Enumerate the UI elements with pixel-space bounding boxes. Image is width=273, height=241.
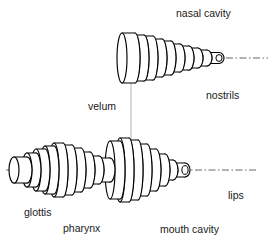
label-mouth-cavity: mouth cavity xyxy=(160,223,220,235)
oral-tract-opening xyxy=(182,166,188,175)
label-lips: lips xyxy=(228,189,244,201)
label-pharynx: pharynx xyxy=(63,222,101,234)
vocal-tract-svg: nasal cavitynostrilsvelumglottispharynxm… xyxy=(0,0,273,241)
glottis-seg-1 xyxy=(9,157,32,183)
vocal-tract-diagram: nasal cavitynostrilsvelumglottispharynxm… xyxy=(0,0,273,241)
nasal-seg-1-near-face xyxy=(117,33,127,83)
nasal-tract-opening xyxy=(216,55,222,62)
nasal-seg-1 xyxy=(117,33,140,83)
label-nostrils: nostrils xyxy=(206,89,239,101)
nasal-tract-group xyxy=(117,33,224,83)
label-nasal-cavity: nasal cavity xyxy=(176,7,232,19)
glottis-seg-1-near-face xyxy=(9,157,19,183)
label-velum: velum xyxy=(88,100,116,112)
label-glottis: glottis xyxy=(24,206,51,218)
oral-tract-group xyxy=(9,138,190,202)
